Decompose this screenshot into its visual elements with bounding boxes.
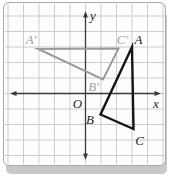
- vertex-label-c-prime: C': [117, 32, 129, 47]
- vertex-label-a-prime: A': [25, 32, 37, 47]
- x-axis-label: x: [152, 96, 159, 111]
- vertex-label-b-prime: B': [88, 79, 99, 94]
- vertex-label-b: B: [86, 112, 94, 127]
- coordinate-plane-figure: A' C' A B' O x y B C: [3, 2, 166, 166]
- y-axis-bottom-arrow-icon: [83, 154, 88, 161]
- y-axis-label: y: [88, 8, 96, 23]
- figure-panel: A' C' A B' O x y B C: [3, 2, 166, 166]
- vertex-label-a: A: [134, 32, 143, 47]
- y-axis-top-arrow-icon: [83, 11, 88, 18]
- x-axis-left-arrow-icon: [10, 91, 17, 96]
- origin-label: O: [73, 96, 83, 111]
- vertex-label-c: C: [135, 133, 144, 148]
- triangle-a-prime-b-prime-c-prime: [38, 49, 118, 80]
